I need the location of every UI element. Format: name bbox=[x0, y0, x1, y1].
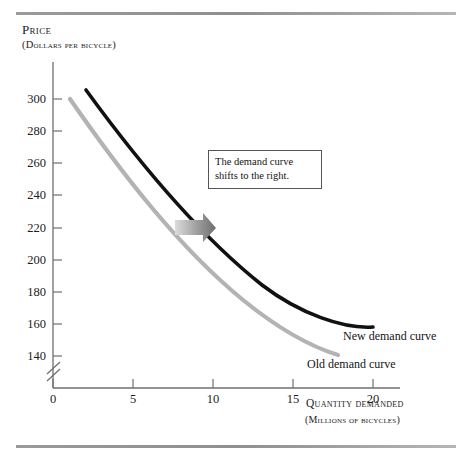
callout-annotation: The demand curve shifts to the right. bbox=[208, 150, 322, 189]
new-demand-curve-label: New demand curve bbox=[343, 329, 436, 344]
x-tick-label: 5 bbox=[130, 392, 136, 407]
old-demand-curve-label: Old demand curve bbox=[307, 357, 396, 372]
y-axis-ticks bbox=[53, 99, 62, 356]
demand-curve-figure: Price (Dollars per bicycle) Quantity dem… bbox=[0, 0, 472, 463]
y-tick-label: 180 bbox=[12, 285, 46, 300]
y-tick-label: 140 bbox=[12, 349, 46, 364]
x-axis-ticks bbox=[53, 379, 373, 388]
x-tick-label: 0 bbox=[50, 392, 56, 407]
y-tick-label: 300 bbox=[12, 92, 46, 107]
x-tick-label: 10 bbox=[207, 392, 220, 407]
y-tick-label: 280 bbox=[12, 124, 46, 139]
new-demand-curve bbox=[86, 90, 373, 327]
y-tick-label: 160 bbox=[12, 317, 46, 332]
y-tick-label: 200 bbox=[12, 253, 46, 268]
y-tick-label: 260 bbox=[12, 156, 46, 171]
y-tick-label: 240 bbox=[12, 188, 46, 203]
y-tick-label: 220 bbox=[12, 221, 46, 236]
plot-canvas bbox=[0, 0, 472, 463]
x-tick-label: 20 bbox=[367, 392, 380, 407]
x-tick-label: 15 bbox=[287, 392, 300, 407]
